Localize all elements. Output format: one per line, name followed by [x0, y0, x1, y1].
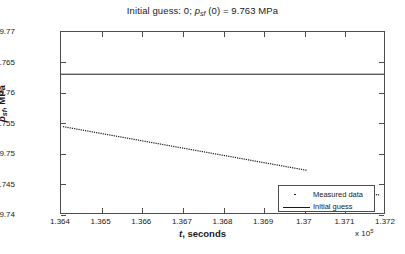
data-point — [89, 131, 90, 132]
data-point — [118, 136, 119, 137]
data-point — [244, 159, 245, 160]
data-point — [239, 158, 240, 159]
data-point — [116, 136, 117, 137]
data-point — [182, 147, 183, 148]
data-point — [283, 166, 284, 167]
legend-marker-dot-icon — [279, 190, 313, 200]
data-point — [100, 133, 101, 134]
data-point — [87, 130, 88, 131]
data-point — [376, 194, 377, 195]
data-point — [257, 161, 258, 162]
data-point — [294, 168, 295, 169]
data-point — [105, 134, 106, 135]
data-point — [222, 155, 223, 156]
data-point — [215, 153, 216, 154]
data-point — [252, 160, 253, 161]
data-point — [92, 131, 93, 132]
chart-title: Initial guess: 0; psf (0) = 9.763 MPa — [0, 5, 405, 17]
data-point — [189, 149, 190, 150]
data-point — [70, 127, 71, 128]
legend-label: Measured data — [313, 190, 363, 199]
data-point — [173, 146, 174, 147]
data-point — [151, 142, 152, 143]
data-point — [142, 140, 143, 141]
data-point — [164, 144, 165, 145]
data-point — [72, 128, 73, 129]
data-point — [67, 127, 68, 128]
data-point — [208, 152, 209, 153]
legend-item-initial-guess: Initial guess — [279, 201, 374, 212]
y-tick-label: 9.76 — [0, 88, 15, 97]
data-point — [197, 150, 198, 151]
data-point — [125, 137, 126, 138]
data-point — [156, 143, 157, 144]
data-point — [285, 166, 286, 167]
data-point — [246, 159, 247, 160]
data-point — [160, 144, 161, 145]
data-point — [193, 149, 194, 150]
data-point — [191, 149, 192, 150]
data-point — [274, 164, 275, 165]
data-point — [127, 138, 128, 139]
data-point — [131, 138, 132, 139]
data-point — [129, 138, 130, 139]
data-point — [78, 129, 79, 130]
data-point — [114, 135, 115, 136]
y-tick-label: 9.755 — [0, 118, 15, 127]
data-point — [378, 194, 379, 195]
data-point — [145, 141, 146, 142]
data-point — [180, 147, 181, 148]
y-tick-mark — [61, 215, 66, 216]
data-point — [226, 155, 227, 156]
data-point — [158, 143, 159, 144]
data-point — [76, 128, 77, 129]
legend-item-measured-data: Measured data — [279, 189, 374, 200]
data-point — [288, 166, 289, 167]
data-point — [171, 145, 172, 146]
data-point — [217, 154, 218, 155]
data-point — [263, 162, 264, 163]
data-point — [299, 168, 300, 169]
data-point — [122, 137, 123, 138]
data-point — [255, 160, 256, 161]
data-point — [136, 139, 137, 140]
data-point — [290, 167, 291, 168]
data-point — [162, 144, 163, 145]
data-point — [277, 164, 278, 165]
data-point — [250, 160, 251, 161]
data-point — [206, 152, 207, 153]
data-point — [149, 142, 150, 143]
data-point — [120, 136, 121, 137]
title-lead: Initial guess: 0; — [127, 5, 195, 16]
y-tick-label: 9.745 — [0, 179, 15, 188]
data-point — [169, 145, 170, 146]
data-point — [219, 154, 220, 155]
data-point — [153, 142, 154, 143]
data-point — [241, 158, 242, 159]
data-point — [224, 155, 225, 156]
data-point — [259, 161, 260, 162]
data-point — [103, 133, 104, 134]
data-point — [85, 130, 86, 131]
legend[interactable]: Measured data Initial guess — [278, 185, 375, 212]
data-point — [233, 157, 234, 158]
data-point — [248, 159, 249, 160]
x-axis-multiplier-base: x 10 — [355, 229, 370, 238]
data-point — [107, 134, 108, 135]
data-point — [301, 169, 302, 170]
y-tick-label: 9.765 — [0, 57, 15, 66]
y-tick-label: 9.74 — [0, 210, 15, 219]
title-tail: (0) = 9.763 MPa — [206, 5, 279, 16]
data-point — [230, 156, 231, 157]
data-point — [272, 164, 273, 165]
data-point — [211, 153, 212, 154]
data-point — [74, 128, 75, 129]
y-tick-label: 9.75 — [0, 149, 15, 158]
data-point — [235, 157, 236, 158]
legend-line-icon — [279, 202, 313, 212]
data-point — [186, 148, 187, 149]
data-point — [228, 156, 229, 157]
data-point — [109, 134, 110, 135]
data-point — [200, 151, 201, 152]
data-point — [184, 148, 185, 149]
